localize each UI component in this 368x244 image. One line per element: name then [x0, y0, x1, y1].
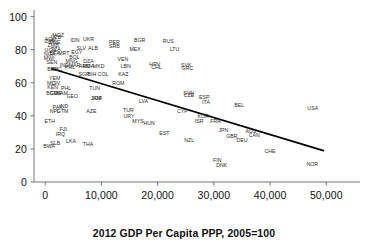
data-point-label: ALB: [88, 46, 98, 51]
x-tick-label: 0: [42, 189, 48, 201]
data-point-label: CAN: [249, 133, 260, 138]
data-point-label: LBN: [120, 64, 130, 69]
data-point-label: ITA: [202, 100, 210, 105]
data-point-label: JPN: [218, 128, 228, 133]
data-point-label: CYP: [177, 109, 188, 114]
y-tick-label: 100: [0, 11, 27, 23]
data-point-label: LKA: [66, 140, 76, 145]
x-tick-label: 40,000: [254, 189, 287, 201]
y-tick-label: 40: [0, 110, 27, 122]
x-tick-label: 10,000: [85, 189, 118, 201]
x-tick-label: 50,000: [310, 189, 343, 201]
data-point-label: LVA: [139, 99, 148, 104]
data-point-label: BGR: [134, 39, 145, 44]
data-point-label: THA: [83, 142, 94, 147]
data-point-label: USA: [307, 107, 318, 112]
data-point-label: MEX: [129, 47, 140, 52]
data-point-label: AZE: [86, 109, 96, 114]
data-point-label: UKR: [83, 37, 94, 42]
x-tick-label: 20,000: [141, 189, 174, 201]
data-point-label: MKD: [93, 64, 105, 69]
y-tick-label: 0: [0, 176, 27, 188]
y-tick-label: 20: [0, 143, 27, 155]
data-point-label: GTM: [57, 109, 69, 114]
data-point-label: LTU: [170, 47, 180, 52]
data-point-label: ISR: [195, 120, 204, 125]
data-point-label: MYS: [132, 119, 143, 124]
data-point-label: BIH: [87, 72, 96, 77]
data-point-label: JOR: [92, 97, 103, 102]
data-point-label: NOR: [306, 163, 318, 168]
data-point-label: CHL: [151, 65, 162, 70]
data-point-label: SEN: [47, 60, 58, 65]
data-point-label: FRA: [210, 119, 221, 124]
data-point-label: BWA: [43, 145, 55, 150]
data-point-label: HUN: [144, 121, 155, 126]
x-tick-label: 30,000: [198, 189, 231, 201]
data-point-label: MRT: [58, 51, 69, 56]
data-point-label: BEL: [234, 103, 244, 108]
data-point-label: IRQ: [56, 132, 65, 137]
data-point-label: PHL: [65, 65, 75, 70]
data-point-label: IDN: [70, 39, 79, 44]
y-tick-label: 80: [0, 44, 27, 56]
data-point-label: DEU: [236, 139, 247, 144]
data-point-label: NZL: [184, 139, 194, 144]
data-point-label: GRC: [182, 66, 194, 71]
data-point-label: EST: [159, 131, 169, 136]
data-point-label: CZE: [184, 93, 195, 98]
data-point-label: NIC: [53, 68, 62, 73]
data-point-label: RUS: [163, 40, 174, 45]
scatter-chart: 020406080100 010,00020,00030,00040,00050…: [0, 0, 368, 244]
data-point-label: CHE: [265, 150, 276, 155]
data-point-label: ETH: [44, 119, 55, 124]
data-point-label: VEN: [117, 57, 128, 62]
data-point-label: KAZ: [118, 73, 128, 78]
data-point-label: TUN: [89, 86, 100, 91]
data-point-label: DNK: [216, 164, 227, 169]
data-point-label: COL: [98, 73, 109, 78]
y-tick-label: 60: [0, 77, 27, 89]
data-point-label: GEO: [66, 94, 78, 99]
x-axis-title: 2012 GDP Per Capita PPP, 2005=100: [0, 227, 368, 239]
data-point-label: ROM: [112, 81, 124, 86]
data-point-label: SRB: [109, 45, 120, 50]
